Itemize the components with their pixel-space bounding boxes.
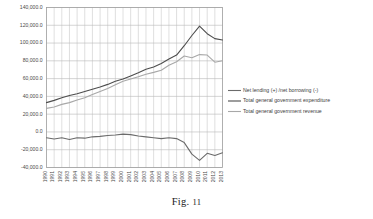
x-axis-tick-label: 1998 [103, 171, 109, 182]
x-axis-tick-label: 1996 [87, 171, 93, 182]
x-axis-tick-label: 1999 [110, 171, 116, 182]
chart-area: 140,000.0120,000.0100,000.080,000.060,00… [0, 0, 373, 196]
x-axis-tick-label: 2006 [164, 171, 170, 182]
figure-caption: Fig. 11 [0, 196, 373, 207]
x-axis-tick-label: 1990 [42, 171, 48, 182]
y-axis-tick-label: 140,000.0 [20, 4, 43, 10]
legend-label: Net lending (+) /net borrowing (-) [243, 87, 318, 93]
y-axis-tick-label: 120,000.0 [20, 22, 43, 28]
y-axis-tick-label: 100,000.0 [20, 39, 43, 45]
x-axis-tick-label: 1994 [72, 171, 78, 182]
x-axis-tick-label: 1995 [80, 171, 86, 182]
x-axis-tick-label: 2011 [202, 171, 208, 182]
x-axis-tick-label: 2000 [118, 171, 124, 182]
x-axis-labels: 1990199119921993199419951996199719981999… [42, 171, 224, 183]
x-axis-tick-label: 2002 [133, 171, 139, 182]
data-series-group [47, 26, 223, 160]
y-axis-tick-label: 0.0 [35, 128, 42, 134]
caption-number: 11 [192, 197, 201, 207]
series-line [47, 55, 223, 109]
y-axis-tick-label: 40,000.0 [23, 93, 43, 99]
x-axis-tick-label: 2001 [126, 171, 132, 182]
x-axis-tick-label: 2012 [210, 171, 216, 182]
x-axis-tick-label: 1993 [64, 171, 70, 182]
grid-lines [47, 8, 223, 168]
y-axis-tick-label: 60,000.0 [23, 75, 43, 81]
x-axis-tick-label: 2009 [187, 171, 193, 182]
plot-border [47, 8, 223, 168]
caption-prefix: Fig. [172, 196, 190, 207]
x-axis-tick-label: 2003 [141, 171, 147, 182]
chart-legend: Net lending (+) /net borrowing (-)Total … [228, 87, 330, 114]
x-axis-tick-label: 1997 [95, 171, 101, 182]
x-axis-tick-label: 2007 [172, 171, 178, 182]
y-axis-tick-label: -20,000.0 [21, 146, 43, 152]
x-axis-tick-label: 1991 [49, 171, 55, 182]
figure-container: 140,000.0120,000.0100,000.080,000.060,00… [0, 0, 373, 219]
y-axis-labels: 140,000.0120,000.0100,000.080,000.060,00… [20, 4, 43, 170]
x-axis-tick-label: 1992 [57, 171, 63, 182]
x-axis-tick-label: 2008 [179, 171, 185, 182]
x-axis-tick-label: 2004 [149, 171, 155, 182]
series-line [47, 134, 223, 160]
y-axis-tick-label: -40,000.0 [21, 164, 43, 170]
y-axis-tick-label: 80,000.0 [23, 57, 43, 63]
legend-label: Total general government revenue [243, 108, 322, 114]
series-line [47, 26, 223, 102]
x-axis-tick-label: 2010 [195, 171, 201, 182]
x-axis-tick-label: 2005 [156, 171, 162, 182]
legend-label: Total general government expenditure [243, 97, 330, 103]
x-axis-tick-label: 2013 [218, 171, 224, 182]
y-axis-tick-label: 20,000.0 [23, 111, 43, 117]
line-chart: 140,000.0120,000.0100,000.080,000.060,00… [0, 0, 373, 196]
